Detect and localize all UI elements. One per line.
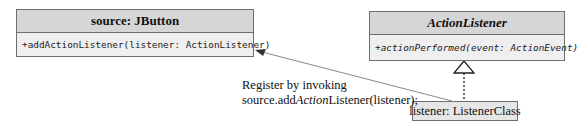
register-note: Register by invoking source.addActionLis… bbox=[242, 78, 418, 108]
listener-class-box: listener: ListenerClass bbox=[412, 101, 518, 121]
interface-name: ActionListener bbox=[370, 12, 564, 35]
actionlistener-interface: ActionListener +actionPerformed(event: A… bbox=[369, 11, 565, 61]
source-class-method: +addActionListener(listener: ActionListe… bbox=[17, 33, 253, 56]
note-line-2: source.addActionListener(listener); bbox=[242, 93, 418, 108]
source-class-name: source: JButton bbox=[17, 10, 253, 33]
note-line-2-suffix: Listener(listener); bbox=[328, 93, 418, 107]
realization-triangle-icon bbox=[454, 61, 474, 73]
register-arrowhead-icon bbox=[255, 49, 266, 56]
note-line-2-italic: Action bbox=[296, 93, 329, 107]
note-line-2-prefix: source.add bbox=[242, 93, 296, 107]
interface-method: +actionPerformed(event: ActionEvent) bbox=[370, 35, 564, 60]
note-line-1: Register by invoking bbox=[242, 78, 418, 93]
source-jbutton-class: source: JButton +addActionListener(liste… bbox=[16, 9, 254, 57]
